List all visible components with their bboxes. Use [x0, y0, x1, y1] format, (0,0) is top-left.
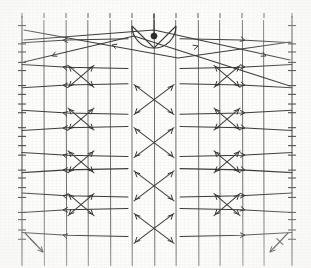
- grid-line-5: [132, 20, 133, 266]
- diagram-canvas: [0, 0, 311, 268]
- grid-line-3: [88, 20, 89, 266]
- sweep-top-b: [24, 36, 290, 86]
- grid-line-7: [176, 20, 177, 266]
- arrowhead-2: [63, 66, 68, 70]
- grid-line-2: [66, 20, 67, 266]
- row-1-left: [22, 64, 128, 68]
- grid-line-10: [242, 20, 243, 266]
- row-7-left: [22, 193, 128, 197]
- center-node: [151, 33, 157, 39]
- row-2-left: [22, 84, 128, 88]
- center-node-dot: [151, 33, 157, 39]
- row-5-left: [22, 152, 128, 156]
- arrowhead-21: [193, 45, 198, 49]
- arrowhead-6: [63, 112, 68, 116]
- arrowhead-18: [63, 234, 68, 238]
- row-6-left: [22, 169, 128, 173]
- top-tick-marks: [22, 13, 292, 18]
- bottom-right-arrow: [270, 233, 288, 252]
- strand-lines: [22, 30, 292, 243]
- figure-root: [0, 0, 311, 268]
- bottom-left-arrow-tick: [30, 239, 36, 245]
- grid-line-4: [110, 20, 111, 266]
- arrowhead-10: [63, 154, 68, 158]
- arrowhead-14: [63, 194, 68, 198]
- row-4-left: [22, 127, 128, 131]
- row-9-right: [180, 233, 292, 237]
- axis-tick-marks: [18, 26, 296, 240]
- grid-line-11: [264, 20, 265, 266]
- sweep-top-c: [24, 30, 290, 58]
- row-9-left: [22, 233, 128, 237]
- grid-line-9: [220, 20, 221, 266]
